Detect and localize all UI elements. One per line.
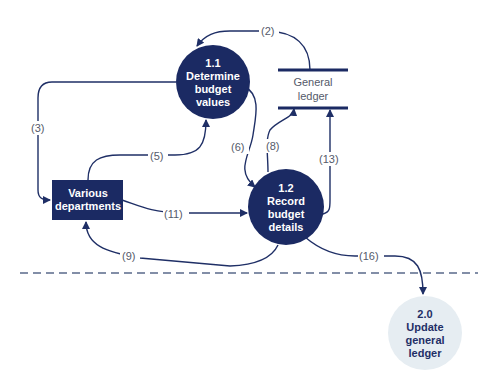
data-store-general-ledger[interactable]: General ledger [278,70,348,108]
process-1-2-record-budget-details[interactable]: 1.2 Record budget details [248,169,324,245]
flow-label-16: (16) [359,250,379,262]
process-1-2-number: 1.2 [278,182,293,194]
process-2-0-update-general-ledger[interactable]: 2.0 Update general ledger [388,296,462,370]
flow-label-8: (8) [266,140,279,152]
process-1-2-line1: Record [267,195,305,207]
flow-label-13: (13) [319,153,339,165]
flow-label-5: (5) [150,150,163,162]
flow-label-6: (6) [231,141,244,153]
process-1-2-line3: details [269,221,304,233]
flow-label-11: (11) [164,208,183,220]
process-2-0-line3: ledger [408,347,442,359]
process-1-1-line1: Determine [186,70,240,82]
entity-label-line2: departments [55,200,121,212]
data-flow-diagram: (2) (3) (5) (6) (8) (13) (11) (9) (16) G… [0,0,493,380]
flow-label-3: (3) [31,122,44,134]
process-1-1-line2: budget [195,83,232,95]
process-2-0-line2: general [405,334,444,346]
entity-label-line1: Various [68,187,108,199]
data-store-label-line2: ledger [298,90,329,102]
process-1-1-determine-budget-values[interactable]: 1.1 Determine budget values [176,45,250,119]
flow-label-9: (9) [122,250,135,262]
flow-6 [245,87,256,187]
flow-9 [86,222,278,266]
flow-16 [305,237,423,294]
process-1-1-number: 1.1 [205,57,220,69]
data-store-label-line1: General [293,76,332,88]
process-2-0-line1: Update [406,321,443,333]
flow-label-2: (2) [261,25,274,37]
process-1-2-line2: budget [268,208,305,220]
process-2-0-number: 2.0 [417,308,432,320]
entity-various-departments[interactable]: Various departments [52,180,123,220]
process-1-1-line3: values [196,96,230,108]
flow-5 [88,120,206,180]
